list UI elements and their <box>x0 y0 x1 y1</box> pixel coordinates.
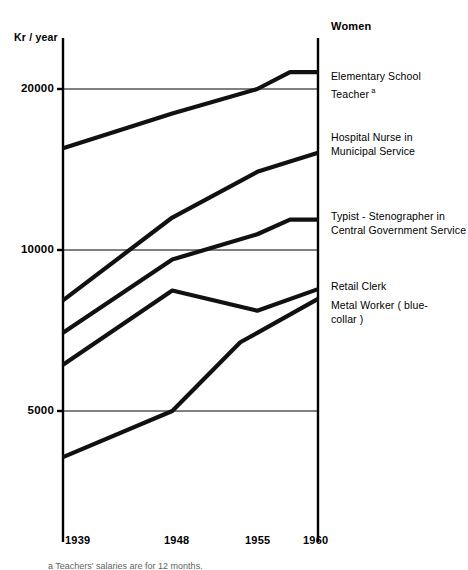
footnote-text: a Teachers' salaries are for 12 months. <box>48 561 203 570</box>
series-lines-group <box>63 72 318 457</box>
series-label: Hospital Nurse inMunicipal Service <box>331 131 415 158</box>
series-line <box>63 72 318 148</box>
series-line <box>63 289 318 365</box>
series-label-line: Central Government Service <box>331 224 466 238</box>
x-tick-label: 1948 <box>164 534 189 546</box>
series-label-line: Typist - Stenographer in <box>331 210 466 224</box>
series-label-line: Metal Worker ( blue- <box>331 299 428 313</box>
tickmarks-group <box>57 89 318 542</box>
series-label-line: collar ) <box>331 313 428 327</box>
series-label-line: Hospital Nurse in <box>331 131 415 145</box>
y-axis-title: Kr / year <box>14 31 58 43</box>
series-label-line: Teacher a <box>331 84 421 101</box>
series-label-line: Municipal Service <box>331 145 415 159</box>
series-label: Retail Clerk <box>331 280 386 294</box>
footnote-marker: a <box>369 86 375 95</box>
series-line <box>63 153 318 301</box>
x-tick-label: 1960 <box>303 534 328 546</box>
series-label: Typist - Stenographer inCentral Governme… <box>331 210 466 237</box>
x-tick-label: 1955 <box>245 534 270 546</box>
series-label-line: Retail Clerk <box>331 280 386 294</box>
y-tick-label: 5000 <box>0 404 54 416</box>
series-label: Metal Worker ( blue-collar ) <box>331 299 428 326</box>
series-label-line: Elementary School <box>331 70 421 84</box>
series-label: Elementary SchoolTeacher a <box>331 70 421 101</box>
chart-container: Kr / year Women 20000100005000 193919481… <box>0 0 468 570</box>
x-tick-label: 1939 <box>65 534 90 546</box>
series-line <box>63 299 318 457</box>
column-header-women: Women <box>331 20 372 32</box>
series-line <box>63 220 318 333</box>
y-tick-label: 20000 <box>0 82 54 94</box>
y-tick-label: 10000 <box>0 243 54 255</box>
